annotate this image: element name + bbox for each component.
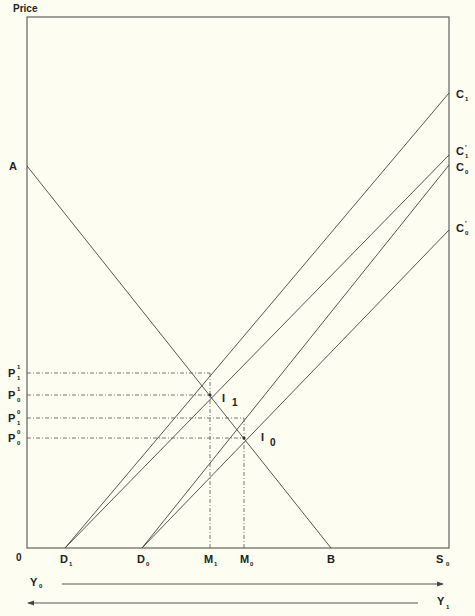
label-p0-0: P 0 0 xyxy=(8,429,21,446)
svg-text:P: P xyxy=(8,412,15,424)
svg-text:C: C xyxy=(456,88,464,100)
label-m0: M 0 xyxy=(240,553,254,567)
svg-text:1: 1 xyxy=(465,153,469,159)
svg-text:0: 0 xyxy=(250,561,254,567)
svg-text:S: S xyxy=(436,553,443,565)
svg-text:I: I xyxy=(261,431,264,443)
label-y1: Y 1 xyxy=(437,595,450,610)
svg-text:1: 1 xyxy=(17,375,21,381)
svg-text:0: 0 xyxy=(465,169,469,175)
svg-text:0: 0 xyxy=(17,409,21,415)
svg-text:Y: Y xyxy=(30,576,38,588)
svg-text:M: M xyxy=(204,553,213,565)
svg-text:1: 1 xyxy=(446,604,450,610)
svg-text:': ' xyxy=(465,144,467,151)
label-c1-prime: C ' 1 xyxy=(456,144,469,159)
svg-text:1: 1 xyxy=(17,386,21,392)
supply-line-c1-prime xyxy=(65,155,449,548)
plot-frame xyxy=(27,17,449,548)
label-b: B xyxy=(327,553,335,565)
svg-text:P: P xyxy=(8,432,15,444)
label-a: A xyxy=(9,160,17,172)
label-p1-1: P 1 1 xyxy=(8,364,21,381)
svg-text:1: 1 xyxy=(214,561,218,567)
equilibrium-point-i1 xyxy=(208,393,211,396)
svg-text:D: D xyxy=(137,553,145,565)
label-y0: Y 0 xyxy=(30,576,43,589)
svg-text:1: 1 xyxy=(17,364,21,370)
label-s0: S 0 xyxy=(436,553,450,567)
svg-text:Y: Y xyxy=(437,595,445,607)
label-i1: I 1 xyxy=(222,392,238,408)
svg-text:D: D xyxy=(60,553,68,565)
label-i0: I 0 xyxy=(261,431,276,448)
supply-line-c0-prime xyxy=(142,230,449,548)
svg-text:C: C xyxy=(456,145,464,157)
svg-text:0: 0 xyxy=(17,440,21,446)
supply-line-c0 xyxy=(142,165,449,548)
svg-text:P: P xyxy=(8,367,15,379)
svg-text:1: 1 xyxy=(69,561,73,567)
svg-text:I: I xyxy=(222,392,225,404)
svg-text:0: 0 xyxy=(270,437,276,448)
trade-diagram: Price A 0 P 1 1 P 1 0 P 0 1 P 0 0 I 1 I … xyxy=(0,0,475,616)
label-m1: M 1 xyxy=(204,553,218,567)
label-p0-1: P 1 0 xyxy=(8,386,21,403)
svg-text:1: 1 xyxy=(232,397,238,408)
svg-text:1: 1 xyxy=(465,96,469,102)
svg-text:0: 0 xyxy=(146,561,150,567)
label-c0: C 0 xyxy=(456,161,469,175)
label-c1: C 1 xyxy=(456,88,469,102)
svg-text:1: 1 xyxy=(17,420,21,426)
label-p1-0: P 0 1 xyxy=(8,409,21,426)
origin-label: 0 xyxy=(16,552,22,563)
svg-text:0: 0 xyxy=(446,561,450,567)
svg-text:0: 0 xyxy=(39,583,43,589)
price-axis-label: Price xyxy=(13,3,38,14)
svg-text:0: 0 xyxy=(17,429,21,435)
svg-text:0: 0 xyxy=(465,230,469,236)
svg-text:M: M xyxy=(240,553,249,565)
label-d0: D 0 xyxy=(137,553,150,567)
svg-text:C: C xyxy=(456,161,464,173)
demand-line-ab xyxy=(27,166,331,548)
supply-line-c1 xyxy=(65,93,449,548)
equilibrium-point-i0 xyxy=(242,436,245,439)
label-d1: D 1 xyxy=(60,553,73,567)
svg-text:0: 0 xyxy=(17,397,21,403)
svg-text:': ' xyxy=(465,220,467,227)
svg-text:C: C xyxy=(456,222,464,234)
svg-text:P: P xyxy=(8,389,15,401)
label-c0-prime: C ' 0 xyxy=(456,220,469,236)
